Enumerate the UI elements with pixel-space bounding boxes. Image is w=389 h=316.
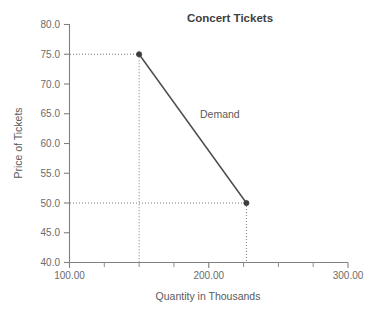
- x-axis-title: Quantity in Thousands: [156, 290, 261, 302]
- chart-title: Concert Tickets: [187, 12, 273, 24]
- x-tick-label-300: 300.00: [333, 270, 364, 281]
- data-point-marker: [137, 52, 142, 57]
- y-tick-label-55: 55.0: [41, 168, 61, 179]
- y-tick-label-80: 80.0: [41, 19, 61, 30]
- x-tick-label-200: 200.00: [193, 270, 224, 281]
- y-tick-label-40: 40.0: [41, 257, 61, 268]
- y-tick-label-65: 65.0: [41, 108, 61, 119]
- y-tick-label-45: 45.0: [41, 227, 61, 238]
- y-tick-label-70: 70.0: [41, 79, 61, 90]
- y-tick-label-75: 75.0: [41, 49, 61, 60]
- y-axis-title: Price of Tickets: [12, 107, 24, 178]
- demand-series-label: Demand: [200, 108, 240, 120]
- data-point-marker: [244, 200, 249, 205]
- chart-container: Concert Tickets 80.0 75.0 70.0 65.0 60.0…: [0, 0, 389, 316]
- x-tick-label-100: 100.00: [54, 270, 85, 281]
- chart-background: [0, 0, 389, 316]
- concert-tickets-line-chart: Concert Tickets 80.0 75.0 70.0 65.0 60.0…: [0, 0, 389, 316]
- y-tick-label-50: 50.0: [41, 198, 61, 209]
- y-tick-label-60: 60.0: [41, 138, 61, 149]
